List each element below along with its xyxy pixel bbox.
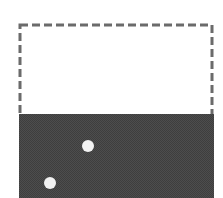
dashed-outline-box bbox=[20, 25, 212, 117]
white-dot bbox=[82, 140, 94, 152]
diagram-svg bbox=[0, 0, 223, 198]
white-dot bbox=[44, 177, 56, 189]
diagram-canvas bbox=[0, 0, 223, 198]
